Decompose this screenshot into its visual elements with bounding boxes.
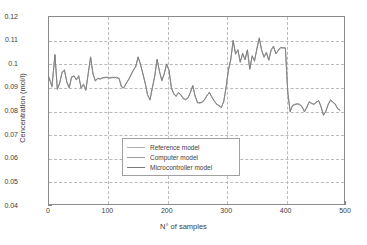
- y-tick-label: 0.09: [4, 83, 18, 90]
- y-tick-label: 0.06: [4, 154, 18, 161]
- data-series-line: [49, 38, 340, 116]
- x-axis-label: N° of samples: [0, 223, 367, 231]
- x-tick-label: 100: [87, 207, 127, 214]
- x-tick-label: 300: [206, 207, 246, 214]
- legend-item[interactable]: Microcontroller model: [123, 162, 239, 172]
- legend-item[interactable]: Computer model: [123, 152, 239, 162]
- legend-line-swatch: [127, 147, 145, 148]
- y-tick-label: 0.08: [4, 107, 18, 114]
- legend-label: Computer model: [150, 154, 198, 161]
- x-tick-label: 400: [266, 207, 306, 214]
- y-axis-label: Cencentration (mol/l): [19, 33, 27, 183]
- y-tick-label: 0.07: [4, 131, 18, 138]
- legend-label: Reference model: [150, 144, 200, 151]
- legend-line-swatch: [127, 167, 145, 168]
- data-series-line: [49, 38, 340, 115]
- x-tick-label: 200: [147, 207, 187, 214]
- y-tick-label: 0.11: [5, 36, 18, 43]
- y-tick-label: 0.1: [8, 60, 18, 67]
- legend-item[interactable]: Reference model: [123, 142, 239, 152]
- legend: Reference modelComputer modelMicrocontro…: [122, 138, 240, 176]
- y-tick-label: 0.05: [4, 178, 18, 185]
- legend-label: Microcontroller model: [150, 164, 212, 171]
- data-series-group: [49, 17, 346, 206]
- legend-line-swatch: [127, 157, 145, 158]
- y-tick-label: 0.12: [4, 13, 18, 20]
- data-series-line: [49, 39, 340, 115]
- y-tick-label: 0.04: [4, 202, 18, 209]
- x-tick-label: 0: [28, 207, 68, 214]
- x-tick-label: 500: [325, 207, 365, 214]
- figure-chart: Cencentration (mol/l) N° of samples 0.04…: [0, 0, 367, 245]
- plot-area: [48, 16, 345, 205]
